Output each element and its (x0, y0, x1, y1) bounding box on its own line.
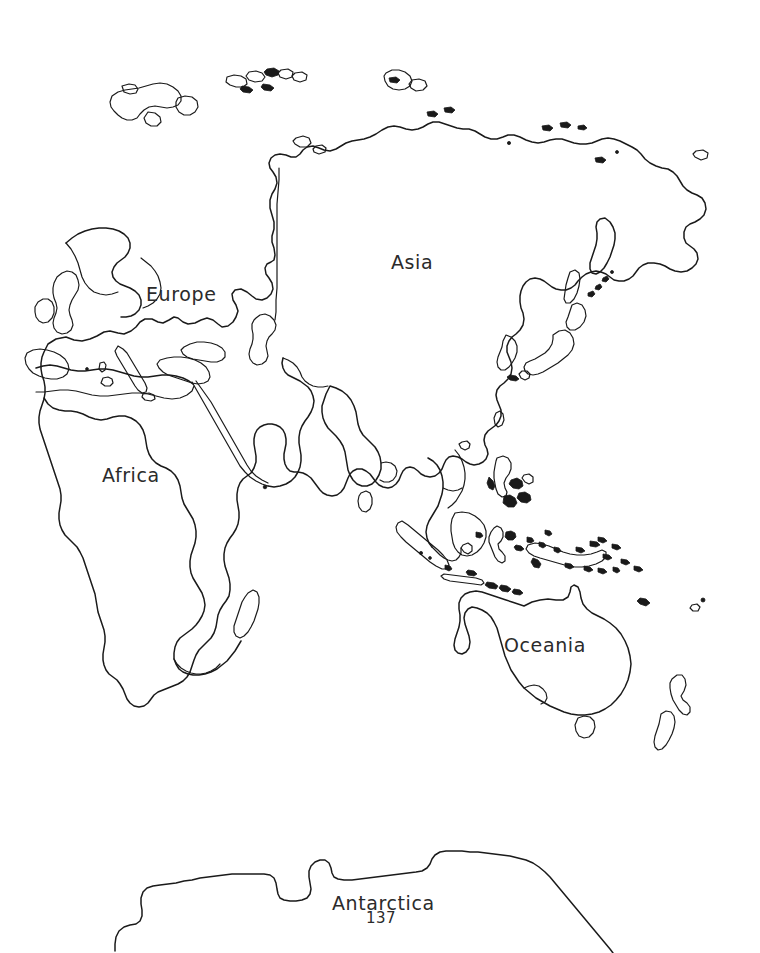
continent-label-asia: Asia (391, 253, 433, 272)
black-sea (181, 342, 225, 362)
svalbard (110, 83, 198, 126)
arabian-peninsula (268, 358, 328, 487)
kuril-islands (588, 271, 614, 298)
tasmania (575, 716, 595, 738)
novaya-zemlya (384, 70, 427, 91)
taiwan-hainan (459, 411, 504, 450)
continent-label-oceania: Oceania (504, 636, 586, 655)
india-subcontinent (322, 386, 397, 486)
british-isles (35, 271, 79, 334)
philippines (487, 456, 533, 507)
sumatra (396, 521, 449, 569)
map-page: Europe Asia Africa Oceania Antarctica 13… (0, 0, 760, 953)
sri-lanka (358, 491, 372, 512)
madagascar (234, 590, 259, 638)
franz-josef-land (226, 68, 307, 93)
new-zealand (654, 675, 690, 750)
continent-label-europe: Europe (146, 285, 216, 304)
arctic-islands (293, 107, 708, 163)
continent-label-africa: Africa (102, 466, 160, 485)
pacific-islands (637, 598, 705, 611)
red-sea (192, 381, 268, 486)
europe-asia-divide (275, 168, 279, 320)
kamchatka (590, 218, 615, 274)
japan (507, 303, 586, 381)
page-number: 137 (0, 911, 760, 926)
page-number-value: 137 (366, 909, 396, 927)
african-lakes (263, 485, 267, 489)
caspian-sea (249, 314, 276, 365)
sulawesi (489, 526, 516, 563)
mediterranean-sea (36, 365, 194, 399)
lesser-sunda-islands (419, 530, 620, 595)
java (441, 574, 484, 585)
iberian-peninsula (25, 349, 69, 379)
africa-coastline-detail (44, 398, 241, 675)
indochina-peninsula (426, 450, 465, 547)
italy (115, 346, 147, 393)
eurasia-africa-landmass (39, 122, 706, 707)
